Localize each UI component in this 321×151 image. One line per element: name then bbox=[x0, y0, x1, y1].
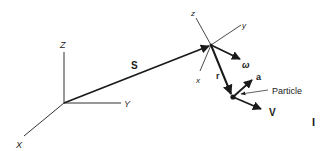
particle-leader-line bbox=[241, 90, 268, 94]
fixed-x-axis bbox=[24, 103, 64, 136]
omega-vector-label: ω bbox=[242, 60, 250, 70]
s-vector-label: S bbox=[131, 60, 138, 71]
r-vector-label: r bbox=[216, 71, 220, 81]
particle-label: Particle bbox=[272, 86, 302, 96]
moving-y-axis bbox=[211, 25, 241, 45]
moving-z-label: z bbox=[190, 9, 195, 18]
a-vector-line bbox=[233, 80, 252, 97]
moving-z-axis bbox=[196, 18, 211, 45]
fixed-x-label: X bbox=[15, 140, 23, 150]
fixed-frame: Z Y X bbox=[15, 40, 131, 150]
v-vector-label: V bbox=[269, 107, 276, 118]
corner-mark: I bbox=[312, 116, 315, 128]
a-vector-label: a bbox=[256, 72, 262, 82]
s-vector: S bbox=[64, 46, 209, 103]
fixed-z-label: Z bbox=[59, 40, 66, 50]
v-vector-line bbox=[233, 97, 261, 109]
s-vector-line bbox=[64, 46, 209, 103]
kinematics-diagram: Z Y X S z y x ω r a V Particle I bbox=[0, 0, 321, 151]
moving-x-label: x bbox=[195, 76, 201, 85]
fixed-y-label: Y bbox=[124, 99, 131, 109]
moving-y-label: y bbox=[241, 21, 247, 30]
particle: a V Particle bbox=[230, 72, 302, 118]
